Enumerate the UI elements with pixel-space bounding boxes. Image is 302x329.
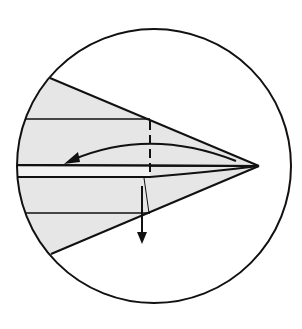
paper-group [0, 78, 259, 254]
center-crease-top-overlay [0, 165, 259, 166]
origami-diagram [0, 0, 302, 329]
center-flap-fill [0, 166, 150, 177]
arrowhead-down-icon [137, 232, 147, 244]
